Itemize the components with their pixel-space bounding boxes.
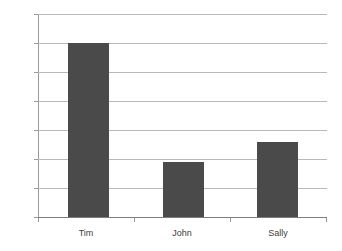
gridline-0-baseline: [38, 217, 327, 218]
x-axis-tick-mark: [134, 218, 135, 222]
bar-tim[interactable]: [68, 43, 109, 217]
x-axis-label-john: John: [134, 228, 230, 238]
x-axis-tick-mark: [230, 218, 231, 222]
bar-john[interactable]: [163, 162, 204, 217]
x-axis-tick-mark: [326, 218, 327, 222]
x-axis-tick-mark: [38, 218, 39, 222]
bar-sally[interactable]: [257, 142, 298, 217]
x-axis-label-sally: Sally: [230, 228, 326, 238]
x-axis-label-tim: Tim: [38, 228, 134, 238]
plot-area: [38, 14, 327, 217]
bar-chart: 70 60 50 40 30 20 10 0 Tim John Sally: [0, 0, 342, 251]
gridline-70: [38, 14, 327, 15]
